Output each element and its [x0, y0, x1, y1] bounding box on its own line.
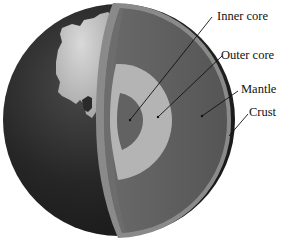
label-mantle: Mantle: [241, 83, 276, 96]
leader-dot-mantle: [201, 115, 203, 117]
label-outer-core: Outer core: [221, 49, 274, 62]
earth-cutaway-illustration: [0, 0, 289, 240]
label-inner-core: Inner core: [217, 10, 268, 23]
leader-dot-outer-core: [157, 116, 159, 118]
leader-dot-inner-core: [129, 119, 131, 121]
label-crust: Crust: [249, 106, 276, 119]
